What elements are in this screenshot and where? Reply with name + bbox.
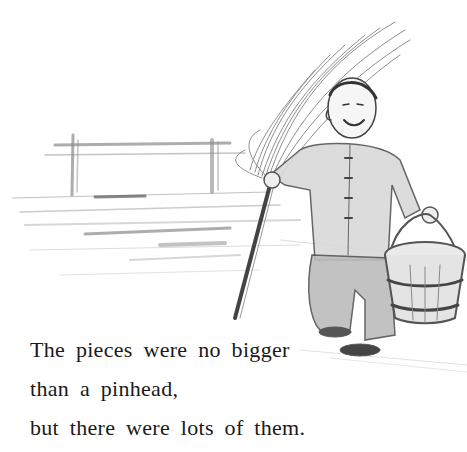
- wooden-frame: [45, 135, 245, 195]
- story-line-1: The pieces were no bigger: [30, 337, 290, 363]
- bucket: [385, 214, 465, 323]
- book-page: The pieces were no bigger than a pinhead…: [0, 0, 467, 452]
- story-line-2: than a pinhead,: [30, 376, 178, 402]
- story-line-3: but there were lots of them.: [30, 415, 305, 441]
